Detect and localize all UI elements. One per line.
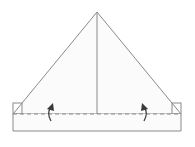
fold-diagram-svg	[0, 0, 195, 147]
bottom-band	[13, 114, 181, 131]
origami-diagram	[0, 0, 195, 147]
